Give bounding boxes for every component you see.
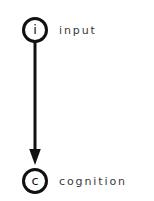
node-cognition-glyph: c xyxy=(31,174,38,187)
node-cognition[interactable]: c xyxy=(22,168,48,194)
flow-diagram: i input c cognition xyxy=(0,0,154,201)
edge-input-to-cognition xyxy=(29,40,41,165)
arrowhead-icon xyxy=(29,149,41,165)
node-cognition-label: cognition xyxy=(59,176,127,187)
node-input-label: input xyxy=(59,25,97,36)
node-input-glyph: i xyxy=(33,23,37,36)
node-input[interactable]: i xyxy=(22,17,48,43)
